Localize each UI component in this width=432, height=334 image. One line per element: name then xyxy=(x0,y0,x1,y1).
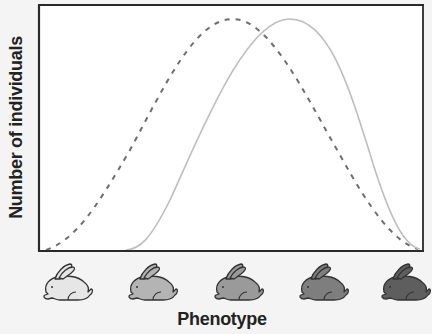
plot-area xyxy=(39,5,423,251)
x-axis-label: Phenotype xyxy=(0,309,428,330)
distribution-plot xyxy=(0,0,428,260)
phenotype-rabbits xyxy=(0,258,428,306)
rabbit-icon-lightest xyxy=(38,262,94,304)
rabbit-icon-dark xyxy=(294,262,350,304)
rabbit-icon-darkest xyxy=(376,262,432,304)
rabbit-icon-medium xyxy=(209,262,265,304)
rabbit-icon-light xyxy=(123,262,179,304)
